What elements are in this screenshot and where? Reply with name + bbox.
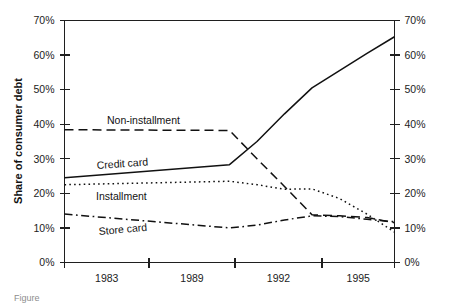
figure-caption: Figure — [14, 293, 40, 303]
series-lines — [65, 37, 395, 232]
y-tick-label-right: 50% — [405, 83, 426, 95]
y-tick-label-left: 40% — [33, 118, 54, 130]
y-tick-label-left: 20% — [33, 187, 54, 199]
y-tick-label-left: 50% — [33, 83, 54, 95]
series-line-credit-card — [65, 37, 395, 178]
y-tick-label-left: 70% — [33, 14, 54, 26]
series-line-non-installment — [65, 130, 395, 223]
y-tick-label-left: 10% — [33, 222, 54, 234]
y-axis-left-labels: 0%10%20%30%40%50%60%70% — [33, 14, 54, 268]
y-tick-label-left: 60% — [33, 49, 54, 61]
x-tick-label: 1989 — [180, 272, 204, 284]
series-inline-labels: Non-installmentCredit cardInstallmentSto… — [96, 114, 180, 237]
x-tick-label: 1983 — [95, 272, 119, 284]
line-chart: 0%10%20%30%40%50%60%70% 0%10%20%30%40%50… — [0, 0, 452, 305]
y-tick-label-right: 70% — [405, 14, 426, 26]
x-tick-label: 1992 — [267, 272, 291, 284]
figure-container: 0%10%20%30%40%50%60%70% 0%10%20%30%40%50… — [0, 0, 452, 305]
y-tick-label-left: 0% — [39, 256, 54, 268]
y-tick-label-right: 10% — [405, 222, 426, 234]
y-tick-label-right: 30% — [405, 153, 426, 165]
store-card-label: Store card — [98, 221, 147, 237]
non-installment-label: Non-installment — [107, 114, 180, 126]
y-axis-right-labels: 0%10%20%30%40%50%60%70% — [405, 14, 426, 268]
y-axis-title: Share of consumer debt — [12, 78, 24, 204]
y-tick-label-right: 40% — [405, 118, 426, 130]
y-tick-label-left: 30% — [33, 153, 54, 165]
x-tick-label: 1995 — [347, 272, 371, 284]
installment-label: Installment — [96, 190, 147, 202]
y-tick-label-right: 60% — [405, 49, 426, 61]
credit-card-label: Credit card — [96, 155, 148, 171]
y-tick-label-right: 0% — [405, 256, 420, 268]
x-axis-labels: 1983198919921995 — [95, 272, 370, 284]
y-tick-label-right: 20% — [405, 187, 426, 199]
